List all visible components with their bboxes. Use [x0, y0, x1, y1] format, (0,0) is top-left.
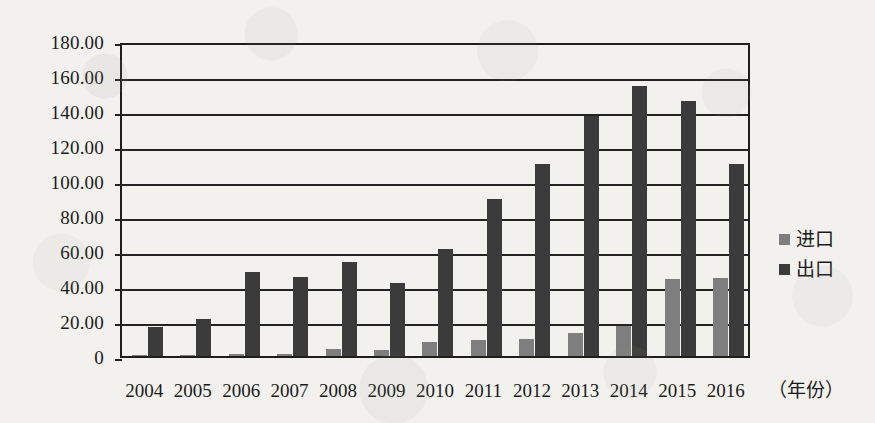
bar-export — [293, 277, 308, 356]
bar-import — [180, 355, 195, 356]
legend-label: 出口 — [796, 260, 834, 279]
chart-legend: 进口出口 — [779, 224, 875, 284]
x-axis-tick-label: 2014 — [605, 380, 653, 402]
y-axis-tick-mark — [115, 149, 122, 151]
y-axis-tick-label: 60.00 — [60, 243, 104, 262]
bar-chart: 180.00160.00140.00120.00100.0080.0060.00… — [0, 0, 875, 423]
bar-group — [122, 45, 170, 356]
y-axis-tick-labels: 180.00160.00140.00120.00100.0080.0060.00… — [0, 0, 112, 423]
y-axis-tick-label: 100.00 — [51, 173, 104, 192]
legend-item[interactable]: 进口 — [779, 224, 875, 254]
x-axis-tick-label: 2016 — [702, 380, 750, 402]
x-axis-tick-label: 2009 — [362, 380, 410, 402]
plot-area — [120, 43, 750, 358]
y-axis-tick-mark — [115, 289, 122, 291]
y-axis-tick-label: 180.00 — [51, 33, 104, 52]
x-axis-tick-label: 2010 — [411, 380, 459, 402]
y-axis-tick-mark — [115, 254, 122, 256]
legend-label: 进口 — [796, 230, 834, 249]
bar-group — [413, 45, 461, 356]
bar-export — [584, 116, 599, 356]
bar-import — [132, 355, 147, 356]
y-axis-tick-mark — [115, 79, 122, 81]
bar-export — [342, 262, 357, 356]
bar-export — [632, 86, 647, 356]
bar-group — [655, 45, 703, 356]
bar-group — [704, 45, 752, 356]
y-axis-tick-mark — [115, 114, 122, 116]
bar-export — [196, 319, 211, 356]
bar-import — [374, 350, 389, 356]
x-axis-title: （年份） — [768, 380, 844, 402]
x-axis-tick-label: 2008 — [314, 380, 362, 402]
bar-export — [390, 283, 405, 357]
bar-import — [665, 279, 680, 356]
y-axis-tick-mark — [115, 184, 122, 186]
bars-layer — [122, 45, 748, 356]
y-axis-tick-mark — [115, 324, 122, 326]
y-axis-tick-label: 160.00 — [51, 68, 104, 87]
y-axis-tick-label: 40.00 — [60, 278, 104, 297]
bar-group — [607, 45, 655, 356]
bar-group — [364, 45, 412, 356]
bar-import — [471, 340, 486, 356]
bar-group — [170, 45, 218, 356]
x-axis-tick-label: 2011 — [459, 380, 507, 402]
bar-import — [229, 354, 244, 356]
bar-import — [519, 339, 534, 357]
x-axis-tick-label: 2006 — [217, 380, 265, 402]
x-axis-tick-label: 2005 — [168, 380, 216, 402]
y-axis-tick-label: 80.00 — [60, 208, 104, 227]
legend-item[interactable]: 出口 — [779, 254, 875, 284]
bar-export — [729, 164, 744, 357]
bar-import — [568, 333, 583, 356]
x-axis-tick-label: 2007 — [265, 380, 313, 402]
x-axis-tick-label: 2012 — [508, 380, 556, 402]
x-axis-tick-label: 2015 — [653, 380, 701, 402]
legend-swatch-icon — [779, 234, 790, 245]
bar-group — [316, 45, 364, 356]
bar-import — [616, 326, 631, 356]
bar-group — [267, 45, 315, 356]
y-axis-tick-label: 0 — [94, 348, 104, 367]
bar-import — [326, 349, 341, 356]
x-axis-tick-label: 2004 — [120, 380, 168, 402]
bar-export — [148, 327, 163, 356]
bar-export — [681, 101, 696, 357]
bar-export — [438, 249, 453, 356]
bar-group — [461, 45, 509, 356]
bar-export — [487, 199, 502, 357]
bar-import — [277, 354, 292, 356]
y-axis-tick-mark — [115, 359, 122, 361]
bar-import — [713, 278, 728, 356]
bar-export — [245, 272, 260, 356]
y-axis-tick-mark — [115, 44, 122, 46]
bar-export — [535, 164, 550, 357]
y-axis-tick-label: 120.00 — [51, 138, 104, 157]
x-axis-tick-labels: 2004200520062007200820092010201120122013… — [120, 380, 750, 408]
bar-group — [558, 45, 606, 356]
y-axis-tick-label: 20.00 — [60, 313, 104, 332]
bar-group — [510, 45, 558, 356]
y-axis-tick-mark — [115, 219, 122, 221]
x-axis-tick-label: 2013 — [556, 380, 604, 402]
bar-import — [422, 342, 437, 356]
bar-group — [219, 45, 267, 356]
legend-swatch-icon — [779, 264, 790, 275]
y-axis-tick-label: 140.00 — [51, 103, 104, 122]
